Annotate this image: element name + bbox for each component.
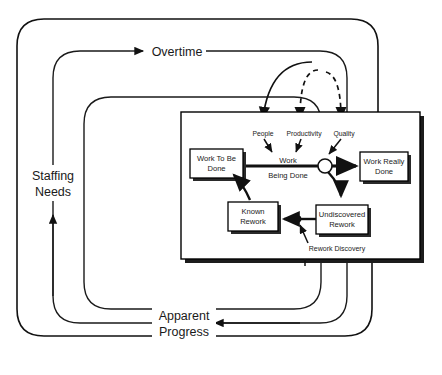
overtime-label-group: Overtime xyxy=(148,41,206,61)
flow-valve-icon xyxy=(318,159,332,173)
driver-label-quality: Quality xyxy=(333,130,355,138)
staffing-needs-label-line2: Needs xyxy=(35,185,71,199)
node-label-known-rework-line2: Rework xyxy=(240,217,266,226)
overtime-label: Overtime xyxy=(152,45,203,59)
driver-label-productivity: Productivity xyxy=(286,130,322,138)
node-label-work-really-done-line2: Done xyxy=(375,167,393,176)
node-label-undiscovered-rework-line1: Undiscovered xyxy=(319,210,365,219)
work-being-done-label-line2: Being Done xyxy=(268,171,308,180)
node-work-really-done: Work Really Done xyxy=(360,152,411,184)
node-label-known-rework-line1: Known xyxy=(241,207,264,216)
rework-discovery-dot-icon xyxy=(295,216,302,223)
rework-discovery-label: Rework Discovery xyxy=(309,245,366,253)
node-known-rework: Known Rework xyxy=(228,202,281,234)
driver-curve-people xyxy=(263,62,312,118)
staffing-needs-label-group: Staffing Needs xyxy=(24,165,82,201)
apparent-progress-label-line2: Progress xyxy=(159,325,209,339)
apparent-progress-label-group: Apparent Progress xyxy=(152,305,216,341)
work-being-done-label-line1: Work xyxy=(279,156,297,165)
apparent-progress-label-line1: Apparent xyxy=(159,309,210,323)
node-label-work-to-be-done-line1: Work To Be xyxy=(197,154,236,163)
rework-cycle-diagram: Overtime Staffing Needs Apparent Progres… xyxy=(0,0,442,375)
node-label-work-to-be-done-line2: Done xyxy=(207,164,225,173)
driver-curve-productivity xyxy=(300,70,318,118)
driver-curve-quality xyxy=(326,72,341,118)
node-undiscovered-rework: Undiscovered Rework xyxy=(316,205,371,237)
node-label-undiscovered-rework-line2: Rework xyxy=(329,220,355,229)
staffing-needs-label-line1: Staffing xyxy=(32,169,74,183)
driver-label-people: People xyxy=(252,130,273,138)
node-work-to-be-done: Work To Be Done xyxy=(190,149,246,181)
diagram-canvas: Overtime Staffing Needs Apparent Progres… xyxy=(0,0,442,375)
node-label-work-really-done-line1: Work Really xyxy=(364,157,405,166)
